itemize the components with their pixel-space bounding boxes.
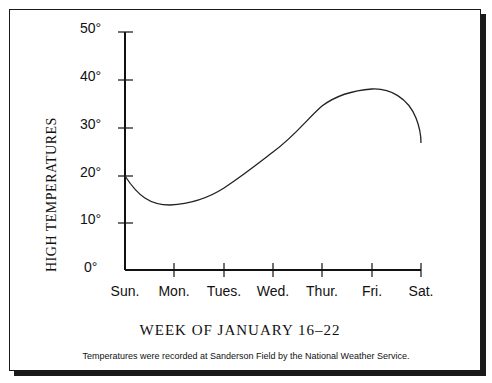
- svg-text:Wed.: Wed.: [257, 283, 289, 299]
- svg-text:40°: 40°: [80, 68, 101, 84]
- svg-text:Sat.: Sat.: [409, 283, 434, 299]
- chart-caption: Temperatures were recorded at Sanderson …: [82, 351, 409, 361]
- svg-text:Mon.: Mon.: [158, 283, 189, 299]
- temperature-line: [125, 89, 421, 205]
- svg-text:10°: 10°: [80, 211, 101, 227]
- x-tick-labels: Sun. Mon. Tues. Wed. Thur. Fri. Sat.: [111, 283, 434, 299]
- temperature-chart: 50° 40° 30° 20° 10° 0° Sun. Mon. Tues. W…: [0, 0, 492, 383]
- x-axis-title: WEEK OF JANUARY 16–22: [140, 322, 341, 338]
- svg-text:50°: 50°: [80, 20, 101, 36]
- svg-text:Tues.: Tues.: [207, 283, 242, 299]
- svg-text:Sun.: Sun.: [111, 283, 140, 299]
- svg-text:Fri.: Fri.: [362, 283, 382, 299]
- svg-text:Thur.: Thur.: [306, 283, 338, 299]
- y-axis-title: HIGH TEMPERATURES: [44, 117, 59, 272]
- svg-text:20°: 20°: [80, 164, 101, 180]
- svg-text:0°: 0°: [84, 259, 97, 275]
- svg-text:30°: 30°: [80, 116, 101, 132]
- y-tick-labels: 50° 40° 30° 20° 10° 0°: [80, 20, 101, 275]
